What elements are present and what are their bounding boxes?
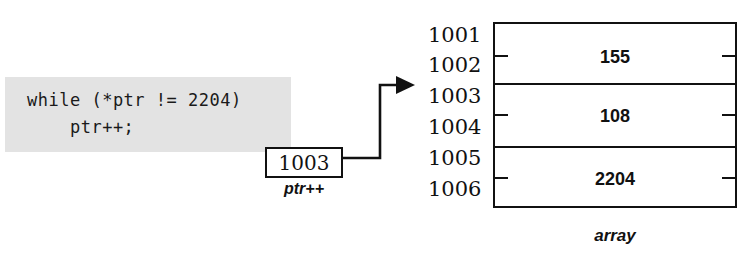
address-label-1001: 1001 xyxy=(428,25,486,46)
pointer-to-address-arrow xyxy=(340,70,425,170)
array-caption: array xyxy=(493,226,737,246)
address-label-1003: 1003 xyxy=(428,86,486,107)
arrow-head-icon xyxy=(396,76,415,94)
address-label-1006: 1006 xyxy=(428,179,486,200)
diagram-canvas: while (*ptr != 2204) ptr++; 1003 ptr++ 1… xyxy=(0,0,745,257)
arrow-path xyxy=(343,85,398,158)
code-line-while: while (*ptr != 2204) xyxy=(27,90,242,110)
pointer-box-label: ptr++ xyxy=(265,180,343,198)
address-label-1005: 1005 xyxy=(428,148,486,169)
pointer-value-text: 1003 xyxy=(279,153,330,173)
cell-divider-1005 xyxy=(495,146,735,148)
array-cell-value-1: 108 xyxy=(495,107,735,125)
array-memory-box: 155 108 2204 xyxy=(493,22,737,208)
address-label-1004: 1004 xyxy=(428,117,486,138)
array-cell-value-2: 2204 xyxy=(495,170,735,188)
array-cell-value-0: 155 xyxy=(495,48,735,66)
code-line-increment: ptr++; xyxy=(27,117,134,137)
address-label-1002: 1002 xyxy=(428,55,486,76)
cell-divider-1003 xyxy=(495,83,735,85)
pointer-value-box: 1003 xyxy=(265,147,343,178)
code-block: while (*ptr != 2204) ptr++; xyxy=(5,77,291,152)
